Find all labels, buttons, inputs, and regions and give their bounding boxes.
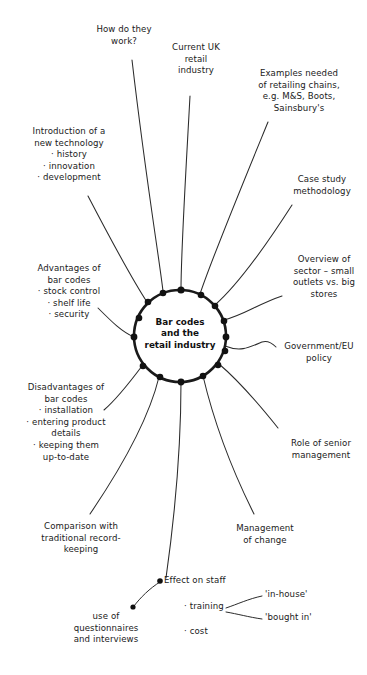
branch-label-introduction-of-new-technology: Introduction of a new technology · histo… [10,126,128,184]
leaf-dot-questionnaires [130,604,135,609]
branch-label-advantages-of-bar-codes: Advantages of bar codes · stock control … [14,263,124,321]
sub-line-questionnaires [134,582,160,606]
branch-label-overview-of-sector: Overview of sector – small outlets vs. b… [283,254,365,300]
node-dot-11 [157,374,164,381]
node-dot-1 [160,290,167,297]
branch-line-examples-needed [200,122,268,294]
branch-label-role-of-senior-management: Role of senior management [276,438,366,461]
sub-label-training: · training [184,601,244,613]
sub-label-in-house: 'in-house' [265,589,325,601]
node-dot-12 [140,363,147,370]
hub-label: Bar codes and the retail industry [134,317,226,351]
sub-label-use-of-questionnaires: use of questionnaires and interviews [60,611,152,646]
node-dot-9 [200,373,207,380]
branch-label-government-eu-policy: Government/EU policy [272,341,366,364]
branch-line-role-of-senior-management [219,364,278,428]
node-dot-8 [215,362,222,369]
node-dot-3 [198,292,205,299]
branch-label-effect-on-staff: Effect on staff [164,575,254,587]
branch-label-management-of-change: Management of change [226,523,304,546]
sub-label-cost: · cost [184,626,234,638]
node-dot-2 [177,286,184,293]
branch-label-how-do-they-work: How do they work? [78,24,170,47]
sub-label-bought-in: 'bought in' [265,612,327,624]
branch-label-disadvantages-of-bar-codes: Disadvantages of bar codes · installatio… [8,382,124,463]
branch-label-examples-needed-retailing-chains: Examples needed of retailing chains, e.g… [238,68,360,114]
node-dot-4 [212,303,219,310]
sub-line-bought-in [226,612,262,619]
mind-map-canvas: Bar codes and the retail industry How do… [0,0,367,675]
node-dot-15 [145,299,152,306]
node-dot-10 [178,379,185,386]
branch-label-current-uk-retail-industry: Current UK retail industry [160,42,232,77]
branch-line-how-do-they-work [132,60,163,291]
branch-label-case-study-methodology: Case study methodology [281,174,363,197]
branch-label-comparison-traditional-record-keeping: Comparison with traditional record- keep… [27,521,135,556]
leaf-dot-effect-on-staff [157,578,163,584]
branch-line-management-of-change [203,376,254,514]
branch-line-effect-on-staff [166,382,181,578]
branch-line-case-study-methodology [215,205,292,305]
branch-line-overview-of-sector [224,296,282,320]
branch-line-government-eu-policy [225,341,276,349]
branch-line-current-uk-retail-industry [181,96,190,290]
